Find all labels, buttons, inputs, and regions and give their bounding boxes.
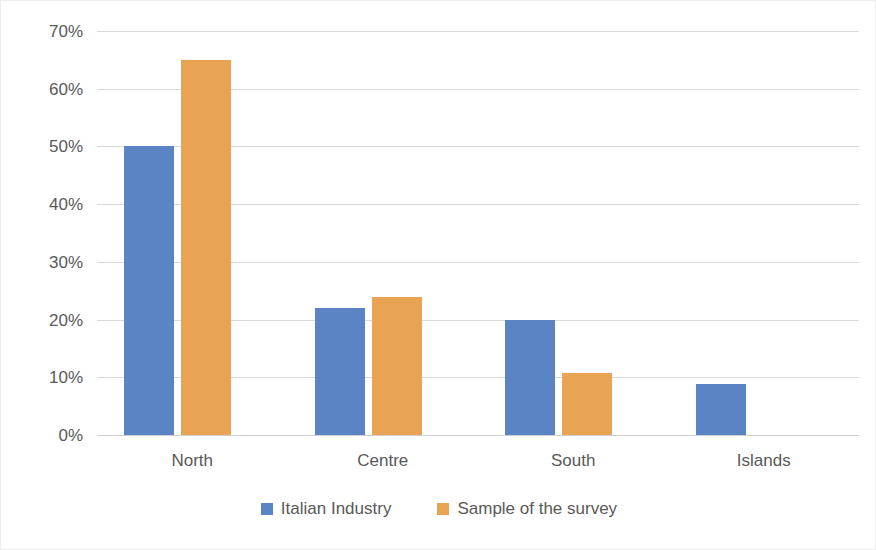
y-axis-tick-label: 30%: [49, 253, 83, 270]
y-axis-tick-label: 60%: [49, 80, 83, 97]
x-axis-tick-label-north: North: [102, 451, 282, 471]
y-axis-tick-label: 10%: [49, 369, 83, 386]
bar-centre-sample-of-the-survey[interactable]: [372, 297, 422, 436]
x-axis-tick-label-centre: Centre: [293, 451, 473, 471]
bar-chart: 70%60%50%40%30%20%10%0% NorthCentreSouth…: [0, 0, 876, 550]
x-axis-tick-label-islands: Islands: [674, 451, 854, 471]
legend-item-italian-industry[interactable]: Italian Industry: [261, 499, 392, 519]
legend-swatch-sample-of-the-survey: [437, 503, 449, 515]
x-axis-tick-label-south: South: [483, 451, 663, 471]
y-axis-tick-label: 70%: [49, 23, 83, 40]
bar-north-sample-of-the-survey[interactable]: [181, 60, 231, 435]
bar-islands-italian-industry[interactable]: [696, 384, 746, 435]
bar-group-south: [478, 31, 669, 435]
gridline-0: [97, 435, 859, 436]
y-axis-tick-label: 40%: [49, 196, 83, 213]
bar-group-north: [97, 31, 288, 435]
legend-swatch-italian-industry: [261, 503, 273, 515]
legend-item-sample-of-the-survey[interactable]: Sample of the survey: [437, 499, 617, 519]
plot-area: [97, 31, 859, 435]
legend-label: Italian Industry: [281, 499, 392, 519]
bar-north-italian-industry[interactable]: [124, 146, 174, 435]
x-axis: NorthCentreSouthIslands: [97, 443, 859, 477]
bar-south-italian-industry[interactable]: [505, 320, 555, 435]
y-axis-tick-label: 50%: [49, 138, 83, 155]
bar-south-sample-of-the-survey[interactable]: [562, 373, 612, 435]
legend-label: Sample of the survey: [457, 499, 617, 519]
y-axis: 70%60%50%40%30%20%10%0%: [1, 1, 97, 550]
chart-legend: Italian IndustrySample of the survey: [1, 499, 876, 519]
bar-centre-italian-industry[interactable]: [315, 308, 365, 435]
bar-group-centre: [288, 31, 479, 435]
y-axis-tick-label: 20%: [49, 311, 83, 328]
y-axis-tick-label: 0%: [58, 427, 83, 444]
bar-group-islands: [669, 31, 860, 435]
